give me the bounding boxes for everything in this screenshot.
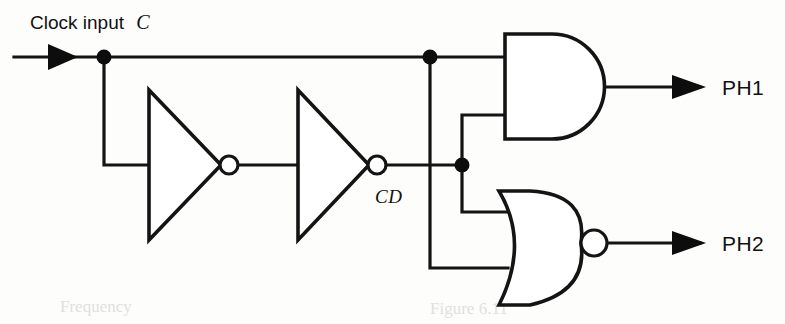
scan-bleed-artifacts: Frequency Figure 6.11 — [60, 297, 508, 318]
nor-gate-body — [499, 191, 582, 305]
circuit-diagram-figure: Frequency Figure 6.11 — [0, 0, 785, 324]
inverter-2-bubble-icon — [368, 156, 386, 174]
clock-input-label-text: Clock input — [30, 12, 125, 33]
inverter-1-triangle — [149, 90, 221, 240]
inverter-1-bubble-icon — [220, 156, 238, 174]
wire-cd-to-and — [462, 115, 507, 165]
and-gate[interactable] — [505, 34, 605, 139]
bleed-text-left: Frequency — [60, 297, 132, 316]
wire-clock-to-inverter1 — [104, 57, 150, 165]
diagram-labels: Clock input C CD PH1 PH2 — [30, 11, 764, 255]
junction-cd-fanout — [455, 158, 470, 173]
inverter-1[interactable] — [149, 90, 238, 240]
nor-gate-bubble-icon — [581, 230, 607, 256]
ph2-output-label: PH2 — [722, 232, 764, 255]
ph2-output-arrow-icon — [672, 231, 706, 255]
and-gate-body — [505, 34, 605, 139]
clock-input-arrow-icon — [48, 44, 78, 70]
clock-input-label: Clock input C — [30, 11, 150, 33]
ph1-output-label: PH1 — [722, 76, 764, 99]
inverter-2[interactable] — [298, 90, 386, 240]
nor-gate[interactable] — [499, 191, 607, 305]
net-c-wires — [14, 57, 512, 268]
junction-clock-gates — [423, 50, 438, 65]
junction-clock-fanout — [97, 50, 112, 65]
cd-signal-label: CD — [375, 186, 402, 207]
circuit-schematic: Frequency Figure 6.11 — [0, 0, 785, 324]
signal-arrowheads — [48, 44, 706, 255]
clock-input-signal-name: C — [136, 11, 150, 33]
ph1-output-arrow-icon — [672, 75, 706, 99]
bleed-text-right: Figure 6.11 — [430, 299, 508, 318]
inverter-2-triangle — [298, 90, 369, 240]
